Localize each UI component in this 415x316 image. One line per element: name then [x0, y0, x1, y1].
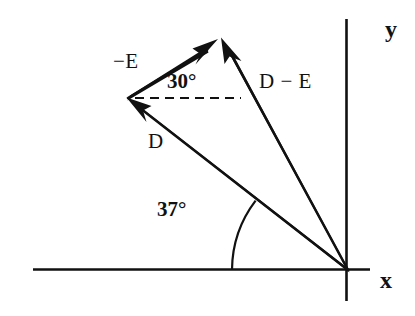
angle-label-37: 37°: [157, 199, 186, 220]
angle-arc-37: [232, 201, 256, 270]
vector-label-minus-e: −E: [113, 51, 139, 72]
angle-label-30: 30°: [167, 71, 196, 92]
vector-diagram-figure: y x −E D − E D 30° 37°: [0, 0, 415, 316]
axis-label-y: y: [385, 17, 397, 41]
vector-D-arrowhead: [127, 98, 152, 123]
vector-label-d: D: [148, 131, 164, 152]
axis-label-x: x: [380, 268, 392, 292]
vector-minus-E-arrowhead: [193, 39, 219, 65]
vector-D-minus-E-arrowhead: [221, 38, 242, 65]
vector-label-d-minus-e: D − E: [259, 71, 312, 92]
vector-D: [127, 98, 350, 273]
vector-diagram-canvas: [0, 0, 415, 316]
axes-group: [33, 19, 370, 301]
